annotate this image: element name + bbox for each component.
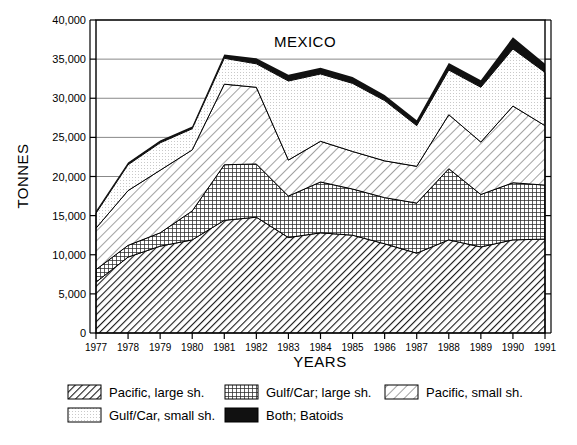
x-tick-label: 1989 — [470, 342, 493, 353]
x-tick-label: 1982 — [245, 342, 268, 353]
x-tick-label: 1991 — [534, 342, 557, 353]
y-tick-label: 20,000 — [52, 171, 86, 183]
x-tick-label: 1980 — [181, 342, 204, 353]
legend-item: Pacific, small sh. — [385, 385, 523, 400]
x-tick-label: 1977 — [85, 342, 108, 353]
legend-swatch — [68, 408, 101, 422]
chart-legend: Pacific, large sh.Gulf/Car; large sh.Pac… — [68, 385, 523, 423]
legend-label: Gulf/Car, small sh. — [109, 408, 215, 423]
x-tick-label: 1985 — [341, 342, 364, 353]
y-tick-label: 40,000 — [52, 14, 86, 26]
legend-item: Pacific, large sh. — [68, 385, 204, 400]
x-axis-title: YEARS — [293, 353, 346, 370]
chart-container: 05,00010,00015,00020,00025,00030,00035,0… — [0, 0, 577, 445]
legend-swatch — [225, 385, 258, 399]
legend-swatch — [68, 385, 101, 399]
x-tick-label: 1979 — [149, 342, 172, 353]
y-tick-label: 10,000 — [52, 249, 86, 261]
y-tick-label: 25,000 — [52, 131, 86, 143]
legend-label: Gulf/Car; large sh. — [266, 385, 372, 400]
x-axis-ticks: 1977197819791980198119821983198419851986… — [85, 333, 557, 353]
chart-title: MEXICO — [274, 33, 336, 50]
x-tick-label: 1988 — [438, 342, 461, 353]
legend-swatch — [385, 385, 418, 399]
y-tick-label: 0 — [80, 327, 86, 339]
x-tick-label: 1990 — [502, 342, 525, 353]
legend-label: Pacific, small sh. — [426, 385, 523, 400]
legend-label: Both; Batoids — [266, 408, 344, 423]
x-tick-label: 1981 — [213, 342, 236, 353]
legend-label: Pacific, large sh. — [109, 385, 204, 400]
legend-swatch — [225, 408, 258, 422]
x-tick-label: 1983 — [277, 342, 300, 353]
x-tick-label: 1986 — [374, 342, 397, 353]
area-series-layer — [96, 37, 545, 333]
y-tick-label: 15,000 — [52, 210, 86, 222]
legend-item: Gulf/Car, small sh. — [68, 408, 215, 423]
legend-item: Gulf/Car; large sh. — [225, 385, 372, 400]
y-axis-title: TONNES — [14, 143, 31, 208]
stacked-area-chart: 05,00010,00015,00020,00025,00030,00035,0… — [0, 0, 577, 445]
x-tick-label: 1978 — [117, 342, 140, 353]
legend-item: Both; Batoids — [225, 408, 344, 423]
y-axis-ticks: 05,00010,00015,00020,00025,00030,00035,0… — [52, 14, 96, 339]
x-tick-label: 1987 — [406, 342, 429, 353]
x-tick-label: 1984 — [309, 342, 332, 353]
y-tick-label: 30,000 — [52, 92, 86, 104]
y-tick-label: 35,000 — [52, 53, 86, 65]
y-tick-label: 5,000 — [58, 288, 86, 300]
